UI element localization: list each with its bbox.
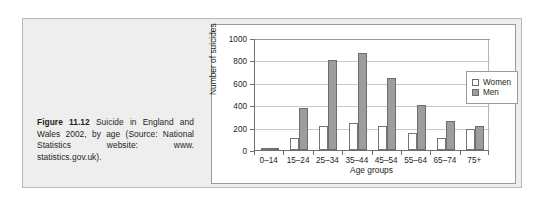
bar-group <box>373 38 402 150</box>
x-axis-tick-label: 65–74 <box>430 156 459 165</box>
x-axis-tick-label: 75+ <box>460 156 489 165</box>
legend-item: Women <box>472 78 511 87</box>
legend-swatch-men <box>472 89 479 96</box>
y-axis-tick-label: 400 <box>233 102 247 111</box>
x-axis-tick-label: 55–64 <box>401 156 430 165</box>
bar-men <box>475 126 484 150</box>
bar-women <box>349 123 358 150</box>
legend-label: Women <box>483 78 511 87</box>
chart-legend: WomenMen <box>466 71 518 104</box>
y-axis-tick-label: 600 <box>233 79 247 88</box>
bar-men <box>417 105 426 150</box>
bar-women <box>319 126 328 150</box>
bar-group <box>284 38 313 150</box>
x-axis-tick-label: 15–24 <box>283 156 312 165</box>
x-axis-tick-label: 25–34 <box>313 156 342 165</box>
bar-men <box>328 60 337 150</box>
bar-group <box>314 38 343 150</box>
bar-men <box>446 121 455 150</box>
legend-label: Men <box>483 88 499 97</box>
bar-men <box>299 108 308 150</box>
bar-women <box>466 129 475 150</box>
bar-women <box>378 126 387 150</box>
figure-panel: Figure 11.12 Suicide in England and Wale… <box>22 18 522 188</box>
bar-group <box>431 38 460 150</box>
legend-swatch-women <box>472 79 479 86</box>
chart-card: Number of suicides 02004006008001000 0–1… <box>211 24 516 184</box>
x-axis-labels: 0–1415–2425–3435–4445–5455–6465–7475+ <box>254 156 489 165</box>
y-axis-tick-label: 200 <box>233 124 247 133</box>
bar-women <box>261 148 270 150</box>
figure-caption: Figure 11.12 Suicide in England and Wale… <box>37 117 194 163</box>
x-axis-title: Age groups <box>254 165 489 175</box>
bar-men <box>270 148 279 150</box>
x-axis-tick-label: 45–54 <box>372 156 401 165</box>
y-axis-title: Number of suicides <box>208 23 218 95</box>
bar-group <box>343 38 372 150</box>
figure-caption-number: Figure 11.12 <box>37 117 90 127</box>
bar-men <box>358 53 367 150</box>
bar-women <box>437 138 446 150</box>
bar-women <box>408 133 417 150</box>
bar-series-container <box>255 38 490 150</box>
plot-area: 02004006008001000 <box>254 39 489 151</box>
y-axis-tick-label: 0 <box>242 147 247 156</box>
y-axis-tick-label: 800 <box>233 57 247 66</box>
bar-group <box>255 38 284 150</box>
bar-women <box>290 138 299 150</box>
legend-item: Men <box>472 88 511 97</box>
y-axis-tick-label: 1000 <box>229 35 247 44</box>
x-axis-tick-label: 35–44 <box>342 156 371 165</box>
bar-group <box>402 38 431 150</box>
bar-men <box>387 78 396 150</box>
x-axis-tick-label: 0–14 <box>254 156 283 165</box>
